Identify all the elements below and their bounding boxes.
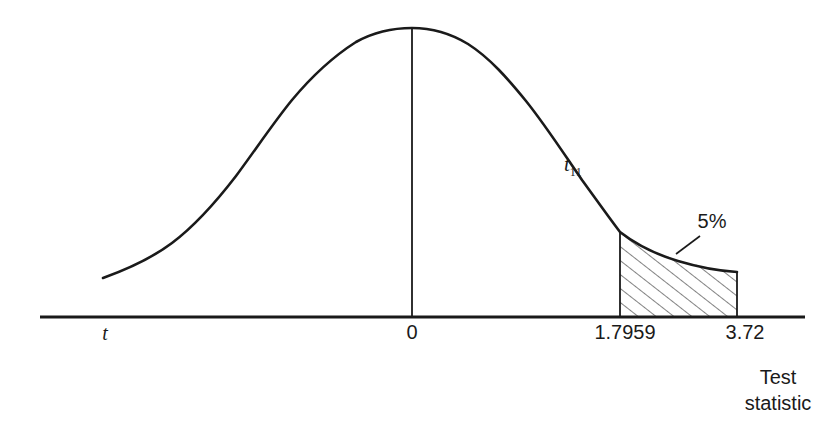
- axis-caption-line-1: Test: [745, 364, 812, 390]
- axis-tick-label-test-statistic: 3.72: [726, 321, 765, 344]
- axis-caption-line-2: statistic: [745, 390, 812, 416]
- axis-tick-label-critical-value: 1.7959: [594, 321, 655, 344]
- curve-name-label: t11: [564, 152, 582, 180]
- tail-area-label: 5%: [698, 210, 727, 233]
- t-distribution-figure: t11 5% t 0 1.7959 3.72 Test statistic: [0, 0, 839, 434]
- axis-caption: Test statistic: [745, 364, 812, 416]
- density-curve: [103, 28, 737, 278]
- axis-tick-label-t: t: [102, 322, 108, 345]
- area-label-leader-line: [676, 236, 700, 254]
- curve-name-subscript: 11: [570, 165, 582, 179]
- axis-tick-label-zero: 0: [406, 321, 417, 344]
